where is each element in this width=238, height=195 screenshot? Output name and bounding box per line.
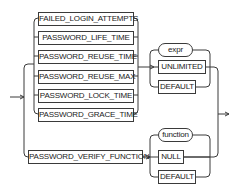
keyword-password-lock-time: PASSWORD_LOCK_TIME xyxy=(38,89,134,103)
keyword-default-1: DEFAULT xyxy=(158,80,196,94)
keyword-password-reuse-time: PASSWORD_REUSE_TIME xyxy=(38,50,134,64)
keyword-failed-login-attempts: FAILED_LOGIN_ATTEMPTS xyxy=(38,12,134,26)
keyword-unlimited: UNLIMITED xyxy=(158,60,206,74)
keyword-null: NULL xyxy=(158,150,184,164)
keyword-password-life-time: PASSWORD_LIFE_TIME xyxy=(38,31,134,45)
keyword-password-verify-function: PASSWORD_VERIFY_FUNCTION xyxy=(28,150,143,164)
variable-function: function xyxy=(158,128,193,142)
variable-expr: expr xyxy=(158,43,193,57)
keyword-default-2: DEFAULT xyxy=(158,170,196,184)
keyword-password-reuse-max: PASSWORD_REUSE_MAX xyxy=(38,70,134,84)
keyword-password-grace-time: PASSWORD_GRACE_TIME xyxy=(38,108,134,122)
